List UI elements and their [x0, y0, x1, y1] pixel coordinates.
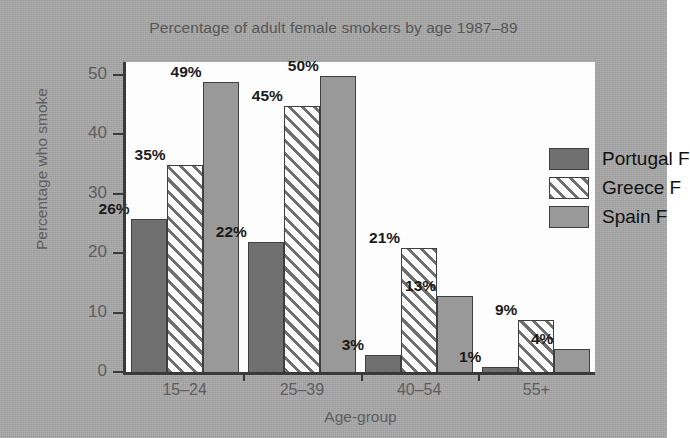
x-axis-title: Age-group — [126, 408, 595, 426]
bar-value-label: 1% — [429, 348, 481, 366]
bar-value-label: 45% — [231, 87, 283, 105]
bars-layer: 26%35%49%22%45%50%3%21%13%1%9%4% — [126, 62, 595, 373]
y-tick-mark — [113, 371, 124, 373]
legend-item: Greece F — [549, 175, 690, 201]
bar — [284, 106, 320, 373]
bar-value-label: 35% — [114, 146, 166, 164]
plot-area: 26%35%49%22%45%50%3%21%13%1%9%4% Portuga… — [126, 62, 595, 373]
legend-label: Portugal F — [602, 148, 690, 170]
y-tick-mark — [113, 74, 124, 76]
x-tick-label: 40–54 — [359, 381, 479, 399]
y-tick-mark — [113, 312, 124, 314]
bar-value-label: 13% — [384, 277, 436, 295]
legend-swatch — [549, 177, 589, 199]
bar-value-label: 9% — [465, 301, 517, 319]
bar — [365, 355, 401, 373]
legend-item: Spain F — [549, 204, 690, 230]
y-axis-title: Percentage who smoke — [33, 69, 51, 269]
bar-value-label: 21% — [348, 229, 400, 247]
bar-value-label: 4% — [501, 330, 553, 348]
bar-value-label: 3% — [312, 336, 364, 354]
bar — [131, 219, 167, 373]
bar — [167, 165, 203, 373]
legend-swatch — [549, 148, 589, 170]
bar — [248, 242, 284, 373]
y-tick-label: 0 — [47, 361, 107, 381]
y-tick-mark — [113, 133, 124, 135]
y-tick-label: 20 — [47, 242, 107, 262]
legend-swatch — [549, 206, 589, 228]
y-axis-line — [123, 62, 126, 375]
x-tick-label: 55+ — [476, 381, 596, 399]
bar-value-label: 50% — [267, 57, 319, 75]
legend-label: Greece F — [602, 177, 681, 199]
chart-legend: Portugal FGreece FSpain F — [549, 146, 690, 233]
x-tick-label: 25–39 — [242, 381, 362, 399]
chart-title: Percentage of adult female smokers by ag… — [0, 19, 667, 37]
y-tick-label: 10 — [47, 302, 107, 322]
bar-value-label: 49% — [150, 63, 202, 81]
legend-label: Spain F — [602, 206, 667, 228]
y-tick-mark — [113, 252, 124, 254]
x-tick-label: 15–24 — [125, 381, 245, 399]
bar — [320, 76, 356, 373]
y-tick-label: 50 — [47, 64, 107, 84]
bar — [554, 349, 590, 373]
y-tick-label: 40 — [47, 123, 107, 143]
x-axis-line — [123, 372, 595, 375]
bar-value-label: 22% — [195, 223, 247, 241]
legend-item: Portugal F — [549, 146, 690, 172]
y-tick-mark — [113, 193, 124, 195]
y-tick-label: 30 — [47, 183, 107, 203]
